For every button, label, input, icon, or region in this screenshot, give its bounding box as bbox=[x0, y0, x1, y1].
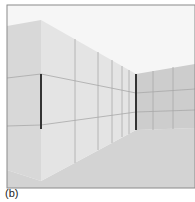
figure-caption: (b) bbox=[5, 187, 18, 200]
near-left-wall bbox=[7, 20, 41, 181]
far-wall bbox=[136, 64, 195, 130]
edge-bar-near bbox=[40, 74, 42, 129]
edge-bar-far bbox=[135, 74, 137, 130]
rendered-scene bbox=[0, 0, 195, 190]
